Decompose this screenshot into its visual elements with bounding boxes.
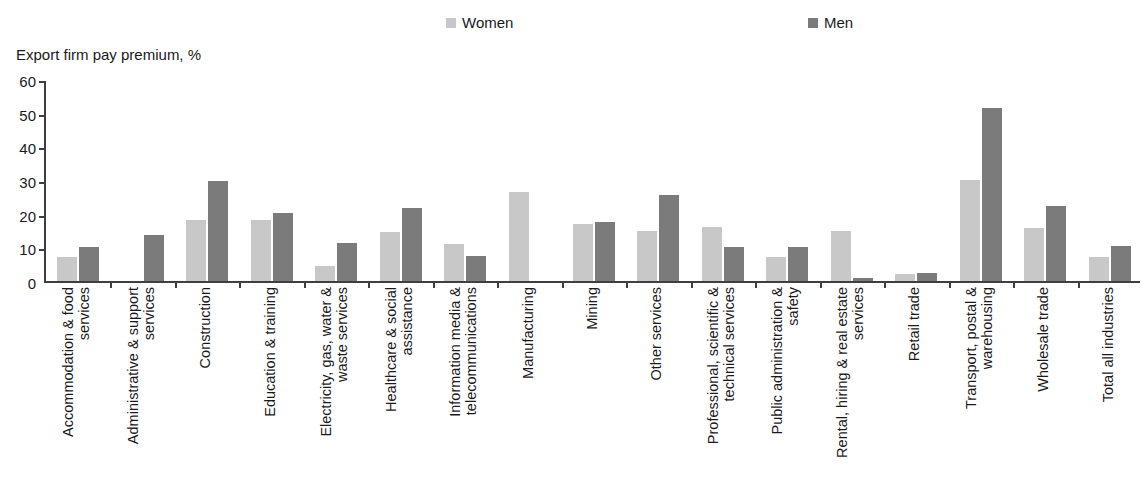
bar-women: [702, 227, 722, 281]
bar-women: [315, 266, 335, 281]
y-axis-tick-mark: [39, 81, 46, 83]
x-axis-category-label: Rental, hiring & real estateservices: [834, 287, 866, 458]
x-axis-category-label: Construction: [197, 287, 213, 368]
bar-men: [724, 247, 744, 281]
bar-men: [1046, 206, 1066, 281]
bar-women: [573, 224, 593, 281]
x-axis-category-label: Professional, scientific &technical serv…: [705, 287, 737, 444]
bar-men: [788, 247, 808, 281]
bar-men: [208, 181, 228, 281]
y-axis-tick-label: 60: [0, 73, 36, 90]
x-axis-category-labels: Accommodation & foodservicesAdministrati…: [44, 287, 1140, 478]
bar-men: [595, 222, 615, 281]
x-axis-category-label: Wholesale trade: [1035, 287, 1051, 392]
bar-women: [57, 257, 77, 281]
x-axis-category-label: Healthcare & socialassistance: [383, 287, 415, 412]
bar-men: [273, 213, 293, 281]
bar-men: [853, 278, 873, 281]
x-axis-category-label: Mining: [584, 287, 600, 330]
bar-men: [1111, 246, 1131, 281]
x-axis-category-label: Other services: [648, 287, 664, 380]
x-axis-category-label: Education & training: [262, 287, 278, 417]
x-axis-category-label: Administrative & supportservices: [125, 287, 157, 444]
legend-item-men[interactable]: Men: [808, 14, 853, 31]
bar-men: [402, 208, 422, 281]
bar-men: [466, 256, 486, 281]
legend-label-men: Men: [824, 14, 853, 31]
x-axis-category-label: Retail trade: [906, 287, 922, 361]
bar-women: [637, 231, 657, 282]
y-axis-title: Export firm pay premium, %: [16, 46, 201, 63]
y-axis-tick-label: 30: [0, 174, 36, 191]
x-axis-category-label: Public administration &safety: [769, 287, 801, 435]
bar-women: [1024, 228, 1044, 281]
bar-men: [79, 247, 99, 281]
bar-women: [186, 220, 206, 281]
bar-women: [509, 192, 529, 281]
bar-chart: Women Men Export firm pay premium, % 605…: [0, 0, 1146, 478]
bar-men: [337, 243, 357, 281]
plot-area: 6050403020100: [44, 81, 1140, 283]
bar-women: [960, 180, 980, 281]
bar-women: [444, 244, 464, 281]
y-axis-tick-label: 0: [0, 275, 36, 292]
legend-swatch-women-icon: [446, 18, 456, 28]
y-axis-tick-label: 10: [0, 241, 36, 258]
legend-item-women[interactable]: Women: [446, 14, 513, 31]
bar-men: [917, 273, 937, 281]
bar-women: [380, 232, 400, 281]
y-axis-tick-label: 50: [0, 106, 36, 123]
chart-legend: Women Men: [0, 14, 1146, 34]
bar-women: [895, 274, 915, 281]
bar-men: [982, 108, 1002, 281]
y-axis-tick-mark: [39, 148, 46, 150]
y-axis-tick-mark: [39, 115, 46, 117]
y-axis-tick-mark: [39, 182, 46, 184]
x-axis-category-label: Information media &telecommunications: [447, 287, 479, 417]
y-axis-tick-label: 40: [0, 140, 36, 157]
legend-label-women: Women: [462, 14, 513, 31]
x-axis-category-label: Accommodation & foodservices: [60, 287, 92, 437]
bar-women: [766, 257, 786, 281]
y-axis-tick-label: 20: [0, 207, 36, 224]
x-axis-category-label: Total all industries: [1100, 287, 1116, 402]
y-axis-tick-mark: [39, 216, 46, 218]
x-axis-category-label: Transport, postal &warehousing: [963, 287, 995, 409]
bar-men: [659, 195, 679, 281]
legend-swatch-men-icon: [808, 18, 818, 28]
bar-women: [1089, 257, 1109, 281]
bar-men: [144, 235, 164, 281]
bar-women: [831, 231, 851, 282]
bar-women: [251, 220, 271, 281]
x-axis-category-label: Manufacturing: [520, 287, 536, 379]
x-axis-category-label: Electricity, gas, water &waste services: [318, 287, 350, 437]
y-axis-tick-mark: [39, 249, 46, 251]
